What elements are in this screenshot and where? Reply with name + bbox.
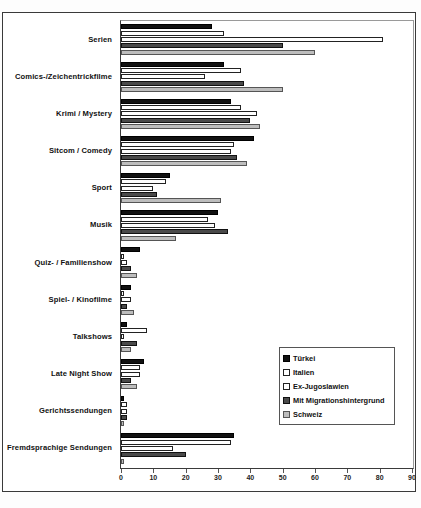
legend-swatch-icon xyxy=(283,411,290,418)
bar xyxy=(121,254,124,259)
x-tick-label-7: 70 xyxy=(343,474,351,481)
bar xyxy=(121,81,244,86)
bar xyxy=(121,50,315,55)
bar xyxy=(121,247,140,252)
bar xyxy=(121,341,137,346)
x-tick-label-6: 60 xyxy=(311,474,319,481)
x-tick xyxy=(347,469,348,473)
bar xyxy=(121,24,212,29)
bar xyxy=(121,186,153,191)
category-axis-labels: SerienComics-/ZeichentrickfilmeKrimi / M… xyxy=(0,20,118,466)
bar xyxy=(121,452,186,457)
bar-group-3 xyxy=(121,136,413,166)
category-label-8: Talkshows xyxy=(73,331,112,340)
bar xyxy=(121,378,131,383)
bar xyxy=(121,124,260,129)
x-tick xyxy=(315,469,316,473)
bar xyxy=(121,291,124,296)
bar xyxy=(121,142,234,147)
bar xyxy=(121,223,215,228)
bar xyxy=(121,310,134,315)
bar xyxy=(121,334,124,339)
bar-group-1 xyxy=(121,62,413,92)
legend-item-0[interactable]: Türkei xyxy=(283,351,391,365)
bar xyxy=(121,440,231,445)
x-tick xyxy=(380,469,381,473)
bar xyxy=(121,173,170,178)
x-tick xyxy=(186,469,187,473)
bar xyxy=(121,155,237,160)
legend-item-label: Italien xyxy=(293,368,314,377)
bar xyxy=(121,372,140,377)
bar-group-6 xyxy=(121,247,413,277)
x-tick xyxy=(412,469,413,473)
x-tick-label-8: 80 xyxy=(376,474,384,481)
bar xyxy=(121,118,250,123)
x-tick xyxy=(283,469,284,473)
x-tick-label-4: 40 xyxy=(246,474,254,481)
bar-group-4 xyxy=(121,173,413,203)
category-label-0: Serien xyxy=(88,34,112,43)
bar xyxy=(121,347,131,352)
bar xyxy=(121,396,124,401)
x-tick xyxy=(218,469,219,473)
bar xyxy=(121,384,137,389)
bar xyxy=(121,328,147,333)
bar xyxy=(121,304,127,309)
bar xyxy=(121,365,140,370)
bar xyxy=(121,198,221,203)
legend-item-4[interactable]: Schweiz xyxy=(283,407,391,421)
bar xyxy=(121,179,166,184)
bar xyxy=(121,192,157,197)
category-label-6: Quiz- / Familienshow xyxy=(34,257,112,266)
bar xyxy=(121,217,208,222)
category-label-9: Late Night Show xyxy=(51,369,112,378)
bar-group-5 xyxy=(121,210,413,240)
legend-item-2[interactable]: Ex-Jugoslawien xyxy=(283,379,391,393)
legend-item-label: Schweiz xyxy=(293,410,322,419)
bar xyxy=(121,273,137,278)
bar xyxy=(121,136,254,141)
legend-item-label: Ex-Jugoslawien xyxy=(293,382,349,391)
category-label-10: Gerichtssendungen xyxy=(39,406,112,415)
legend-swatch-icon xyxy=(283,369,290,376)
bar-group-11 xyxy=(121,433,413,463)
x-tick-label-2: 20 xyxy=(182,474,190,481)
bar xyxy=(121,446,173,451)
x-tick xyxy=(121,469,122,473)
bar xyxy=(121,402,127,407)
bar xyxy=(121,459,124,464)
legend-item-1[interactable]: Italien xyxy=(283,365,391,379)
bar-group-0 xyxy=(121,24,413,54)
legend-swatch-icon xyxy=(283,355,290,362)
bar xyxy=(121,31,224,36)
x-tick xyxy=(250,469,251,473)
bar xyxy=(121,74,205,79)
bar xyxy=(121,266,131,271)
bar xyxy=(121,322,127,327)
bar xyxy=(121,297,131,302)
category-label-11: Fremdsprachige Sendungen xyxy=(7,443,112,452)
category-label-3: Sitcom / Comedy xyxy=(49,146,112,155)
category-label-2: Krimi / Mystery xyxy=(56,108,112,117)
bar xyxy=(121,210,218,215)
legend-swatch-icon xyxy=(283,397,290,404)
bar xyxy=(121,236,176,241)
x-tick xyxy=(153,469,154,473)
legend-item-3[interactable]: Mit Migrationshintergrund xyxy=(283,393,391,407)
bar xyxy=(121,105,241,110)
bar xyxy=(121,161,247,166)
bar xyxy=(121,433,234,438)
bar xyxy=(121,99,231,104)
x-tick-label-3: 30 xyxy=(214,474,222,481)
bar-group-7 xyxy=(121,285,413,315)
bar xyxy=(121,229,228,234)
category-label-7: Spiel- / Kinofilme xyxy=(49,294,112,303)
legend-item-label: Mit Migrationshintergrund xyxy=(293,396,385,405)
bar xyxy=(121,111,257,116)
bar xyxy=(121,415,127,420)
bar xyxy=(121,359,144,364)
legend-item-label: Türkei xyxy=(293,354,315,363)
bar xyxy=(121,149,231,154)
x-tick-label-1: 10 xyxy=(149,474,157,481)
